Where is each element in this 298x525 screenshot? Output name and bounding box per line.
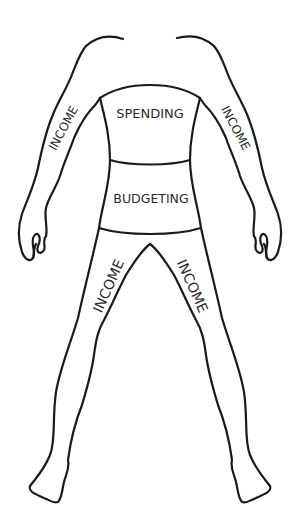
hip-line — [99, 228, 201, 234]
torso-left-side — [99, 98, 110, 228]
spending-label: SPENDING — [116, 106, 184, 121]
left-leg-outer-outline — [30, 228, 99, 503]
right-leg-outer-outline — [201, 228, 270, 503]
budgeting-label: BUDGETING — [113, 191, 188, 206]
waist-line — [110, 160, 190, 165]
body-diagram: SPENDING BUDGETING INCOME INCOME INCOME … — [0, 0, 298, 525]
torso-right-side — [190, 98, 201, 228]
chest-line — [100, 85, 200, 98]
right-arm-income-label: INCOME — [218, 104, 253, 153]
left-arm-income-label: INCOME — [46, 104, 81, 153]
